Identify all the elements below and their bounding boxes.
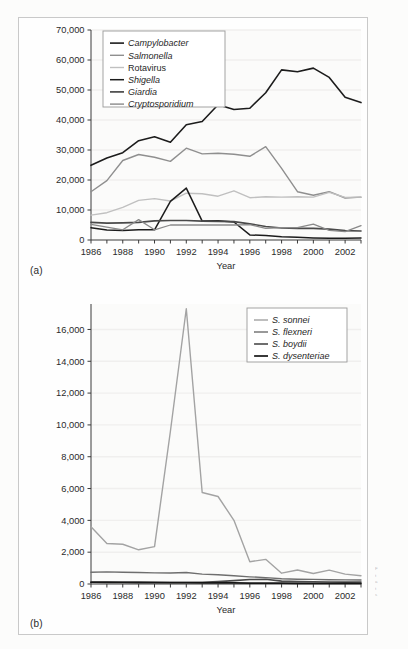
y-tick-label: 8,000: [61, 452, 84, 462]
x-tick-label: 2000: [303, 591, 324, 601]
y-tick-label: 4,000: [61, 516, 84, 526]
y-tick-label: 6,000: [61, 484, 84, 494]
x-tick-label: 2000: [303, 247, 324, 257]
y-tick-label: 60,000: [56, 55, 84, 65]
caption-line: s: [375, 592, 408, 599]
legend-label: S. boydii: [272, 339, 308, 349]
x-tick-label: 1988: [112, 591, 133, 601]
figure-page: 010,00020,00030,00040,00050,00060,00070,…: [0, 0, 408, 649]
legend-label: Cryptosporidium: [128, 99, 194, 109]
y-tick-label: 30,000: [56, 145, 84, 155]
legend-label: S. sonnei: [272, 315, 311, 325]
legend: S. sonneiS. flexneriS. boydiiS. dysenter…: [247, 308, 347, 362]
y-tick-label: 12,000: [56, 388, 84, 398]
y-tick-label: 10,000: [56, 420, 84, 430]
x-tick-label: 1988: [112, 247, 133, 257]
x-tick-label: 1990: [144, 591, 165, 601]
x-tick-label: 1990: [144, 247, 165, 257]
legend-label: Campylobacter: [128, 38, 190, 48]
legend-label: Shigella: [128, 75, 160, 85]
panel-b-tag: (b): [30, 618, 43, 629]
panel-b-chart: 02,0004,0006,0008,00010,00012,00014,0001…: [19, 290, 369, 636]
figure-frame: 010,00020,00030,00040,00050,00060,00070,…: [18, 17, 368, 635]
x-tick-label: 1994: [208, 247, 229, 257]
y-tick-label: 70,000: [56, 25, 84, 35]
x-tick-label: 1992: [176, 591, 197, 601]
x-axis-title: Year: [217, 261, 236, 271]
legend-label: Rotavirus: [128, 63, 167, 73]
y-tick-label: 16,000: [56, 325, 84, 335]
y-tick-label: 20,000: [56, 175, 84, 185]
x-tick-label: 1994: [208, 591, 229, 601]
caption-line: t: [375, 573, 408, 580]
x-tick-label: 1996: [239, 591, 260, 601]
y-tick-label: 10,000: [56, 205, 84, 215]
x-tick-label: 1998: [271, 591, 292, 601]
x-tick-label: 1996: [239, 247, 260, 257]
cropped-caption-text: Ftats: [375, 566, 408, 638]
panel-a-tag: (a): [30, 265, 43, 276]
caption-line: t: [375, 586, 408, 593]
x-tick-label: 2002: [335, 247, 356, 257]
x-axis-title: Year: [217, 605, 236, 615]
y-tick-label: 50,000: [56, 85, 84, 95]
x-tick-label: 1986: [81, 591, 102, 601]
legend-label: Giardia: [128, 87, 157, 97]
legend-label: S. dysenteriae: [272, 351, 330, 361]
x-tick-label: 2002: [335, 591, 356, 601]
y-tick-label: 0: [79, 579, 84, 589]
panel-a-svg: 010,00020,00030,00040,00050,00060,00070,…: [19, 18, 369, 290]
x-tick-label: 1992: [176, 247, 197, 257]
caption-line: a: [375, 579, 408, 586]
legend-label: S. flexneri: [272, 327, 313, 337]
legend: CampylobacterSalmonellaRotavirusShigella…: [103, 31, 225, 109]
caption-line: F: [375, 566, 408, 573]
y-tick-label: 40,000: [56, 115, 84, 125]
y-tick-label: 2,000: [61, 547, 84, 557]
y-tick-label: 14,000: [56, 357, 84, 367]
x-tick-label: 1986: [81, 247, 102, 257]
legend-label: Salmonella: [128, 51, 173, 61]
panel-a-chart: 010,00020,00030,00040,00050,00060,00070,…: [19, 18, 369, 290]
y-tick-label: 0: [79, 235, 84, 245]
x-tick-label: 1998: [271, 247, 292, 257]
panel-b-svg: 02,0004,0006,0008,00010,00012,00014,0001…: [19, 290, 369, 636]
